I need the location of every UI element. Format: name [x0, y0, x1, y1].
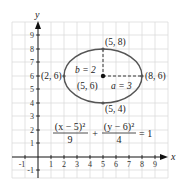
x-tick-label: 2 [62, 160, 66, 169]
x-tick-label: 7 [127, 160, 131, 169]
x-tick-label: 5 [101, 160, 105, 169]
y-tick-label: 3 [30, 112, 34, 121]
y-axis [35, 21, 41, 178]
y-tick-label: 6 [30, 72, 34, 81]
equation-term1-numerator: (x − 5)² [55, 121, 85, 133]
y-tick-label: 2 [30, 126, 34, 135]
x-tick-label: 4 [88, 160, 92, 169]
ellipse-equation: (x − 5)² 9 + (y − 6)² 4 = 1 [53, 121, 152, 145]
equation-plus: + [92, 128, 98, 139]
y-tick-label: 5 [30, 85, 34, 94]
equation-term2-denominator: 4 [117, 134, 122, 145]
x-tick-label: 8 [140, 160, 144, 169]
point-label-right: (8, 6) [145, 71, 166, 82]
x-tick-label: 3 [75, 160, 79, 169]
equation-term1-denominator: 9 [68, 134, 73, 145]
point-label-center: (5, 6) [77, 81, 98, 92]
y-tick-label: 8 [30, 45, 34, 54]
y-tick-label: 4 [30, 99, 34, 108]
vertex-left-point [62, 74, 65, 77]
y-tick-label: 1 [30, 139, 34, 148]
x-tick-labels: -1 1 2 3 4 5 6 7 8 9 [19, 160, 157, 169]
equation-rhs: = 1 [139, 128, 152, 139]
y-tick-label: 9 [30, 31, 34, 40]
x-tick-label: 9 [153, 160, 157, 169]
x-tick-label: -1 [19, 160, 26, 169]
point-label-bottom: (5, 4) [105, 104, 126, 115]
equation-term2-numerator: (y − 6)² [104, 121, 134, 133]
x-tick-label: 6 [114, 160, 118, 169]
covertex-top-point [101, 47, 104, 50]
a-annotation: a = 3 [111, 81, 132, 91]
y-axis-label: y [34, 9, 40, 20]
y-tick-label: -1 [27, 166, 34, 175]
point-label-top: (5, 8) [105, 37, 126, 48]
x-tick-label: 1 [49, 160, 53, 169]
b-annotation: b = 2 [75, 65, 96, 75]
y-tick-label: 7 [30, 58, 34, 67]
ellipse-graph: -1 1 2 3 4 5 6 7 8 9 -1 1 2 3 4 5 6 7 8 … [0, 0, 186, 191]
point-label-left: (2, 6) [41, 71, 62, 82]
x-axis-label: x [170, 151, 176, 162]
center-point [101, 74, 105, 78]
vertex-right-point [140, 74, 143, 77]
grid [12, 22, 168, 178]
